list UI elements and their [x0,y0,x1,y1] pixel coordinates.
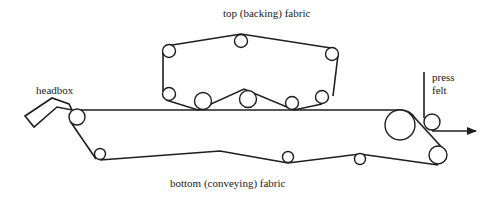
roll-lower-left [163,88,176,101]
turning-roll [429,146,447,164]
headbox-label: headbox [36,84,74,96]
bottom-fabric-rolls [69,109,447,165]
roll-top-middle [235,35,248,48]
roll-bottom-3 [355,154,366,165]
roll-top-left [163,45,176,58]
pickup-roll [424,114,440,130]
headbox-shape [25,98,72,127]
roll-bottom-1 [95,149,106,160]
roll-bottom-2 [283,152,294,163]
press-felt-label-line2: felt [432,84,447,96]
roll-top-right [326,48,339,61]
couch-roll [385,110,415,140]
roll-v-left [195,93,212,110]
roll-v-peak [240,91,257,108]
roll-v-right [286,97,299,110]
roll-lower-right [316,91,329,104]
forming-section-diagram: top (backing) fabric bottom (conveying) … [0,0,495,198]
bottom-fabric-label: bottom (conveying) fabric [170,177,286,190]
press-felt-label-line1: press [432,71,455,83]
top-fabric-label: top (backing) fabric [223,7,310,20]
breast-roll [69,109,85,125]
